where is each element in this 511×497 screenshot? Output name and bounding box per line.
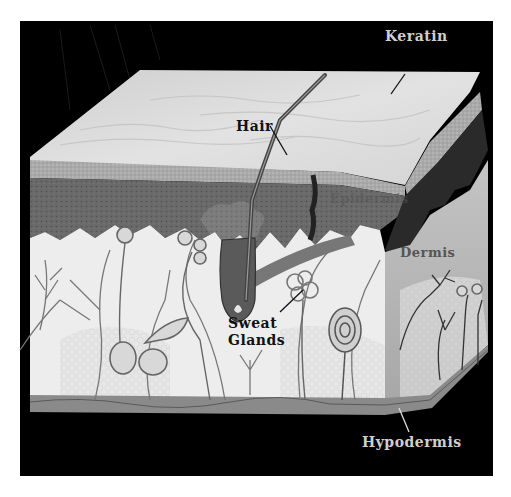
label-sweat-glands-line2: Glands: [228, 332, 285, 349]
label-hypodermis: Hypodermis: [362, 434, 462, 450]
label-keratin: Keratin: [385, 28, 448, 44]
label-hair: Hair: [236, 118, 273, 134]
label-dermis: Dermis: [400, 245, 455, 260]
label-epidermis: Epidermis: [330, 191, 409, 206]
label-sweat-glands-line1: Sweat: [228, 315, 285, 332]
label-sweat-glands: Sweat Glands: [228, 315, 285, 349]
